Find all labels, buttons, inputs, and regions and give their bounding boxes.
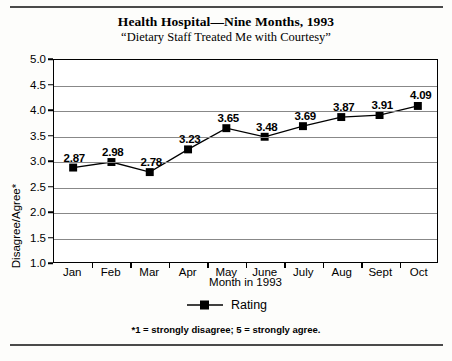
x-tick-mark (130, 263, 132, 268)
data-point-label: 3.87 (333, 101, 355, 113)
y-axis-title: Disagree/Agree* (10, 161, 22, 291)
data-point-marker (69, 164, 77, 172)
y-tick-label: 3.0 (30, 155, 46, 167)
y-tick-label: 4.5 (30, 79, 46, 91)
gridline (54, 86, 437, 87)
data-point-marker (146, 168, 154, 176)
y-tick-label: 2.5 (30, 181, 46, 193)
data-point-label: 3.23 (179, 133, 201, 145)
gridline (54, 213, 437, 214)
gridline (54, 188, 437, 189)
x-tick-mark (400, 263, 402, 268)
chart-subtitle: “Dietary Staff Treated Me with Courtesy” (0, 30, 452, 45)
data-point-marker (299, 122, 307, 130)
data-point-marker (184, 145, 192, 153)
bottom-divider-rule (10, 344, 443, 346)
data-point-label: 2.98 (102, 146, 124, 158)
data-point-marker (376, 111, 384, 119)
data-point-label: 2.78 (140, 156, 162, 168)
chart-legend: Rating (0, 298, 452, 312)
x-tick-mark (207, 263, 209, 268)
y-tick-label: 3.5 (30, 130, 46, 142)
chart-title: Health Hospital—Nine Months, 1993 (0, 14, 452, 30)
gridline (54, 239, 437, 240)
series-rating (54, 60, 437, 262)
data-point-label: 3.69 (294, 110, 316, 122)
y-tick-label: 2.0 (30, 206, 46, 218)
x-tick-mark (361, 263, 363, 268)
x-tick-mark (169, 263, 171, 268)
data-point-label: 3.65 (217, 112, 239, 124)
x-tick-mark (246, 263, 248, 268)
data-point-label: 3.91 (371, 99, 393, 111)
y-axis: Disagree/Agree* 5.04.54.03.53.02.52.01.5… (0, 59, 53, 263)
data-point-marker (337, 113, 345, 121)
data-point-marker (414, 102, 422, 110)
y-tick-label: 4.0 (30, 104, 46, 116)
data-point-label: 3.48 (256, 121, 278, 133)
x-axis-title: Month in 1993 (53, 276, 438, 288)
chart-footnote: *1 = strongly disagree; 5 = strongly agr… (0, 324, 452, 335)
x-tick-mark (323, 263, 325, 268)
data-point-label: 4.09 (410, 89, 432, 101)
data-point-label: 2.87 (63, 152, 85, 164)
y-tick-label: 1.5 (30, 232, 46, 244)
y-tick-label: 1.0 (30, 257, 46, 269)
x-tick-mark (284, 263, 286, 268)
gridline (54, 111, 437, 112)
y-tick-label: 5.0 (30, 53, 46, 65)
gridline (54, 137, 437, 138)
top-divider-rule (10, 6, 443, 8)
data-point-marker (222, 124, 230, 132)
legend-line-marker-icon (185, 298, 225, 312)
x-tick-mark (92, 263, 94, 268)
gridline (54, 162, 437, 163)
plot-area: 2.872.982.783.233.653.483.693.873.914.09 (53, 59, 438, 263)
chart-page: Health Hospital—Nine Months, 1993 “Dieta… (0, 0, 452, 361)
legend-label-rating: Rating (231, 298, 267, 312)
